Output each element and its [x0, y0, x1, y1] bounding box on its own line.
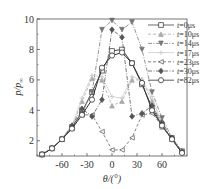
- y-axis-label: p/p∞: [12, 78, 24, 97]
- plot-area: [39, 18, 184, 157]
- data-point-marker: [169, 137, 174, 142]
- x-tick-label: 30: [132, 159, 142, 170]
- legend-marker: [159, 23, 164, 28]
- legend-label: t=14μs: [177, 39, 199, 48]
- legend-item: t=10μs: [148, 30, 199, 39]
- legend-marker: [158, 78, 163, 83]
- data-point-marker: [140, 47, 145, 52]
- x-axis-label: θ/(°): [103, 173, 122, 185]
- y-tick-label: 4: [29, 105, 34, 116]
- data-point-marker: [89, 97, 94, 102]
- data-point-marker: [100, 27, 105, 32]
- data-point-marker: [120, 148, 125, 153]
- legend: t=0μst=10μst=14μst=17μst=23μst=30μst=82μ…: [148, 21, 199, 85]
- x-tick-label: 0: [110, 159, 115, 170]
- legend-label: t=17μs: [177, 49, 199, 58]
- legend-item: t=82μs: [148, 76, 199, 85]
- data-point-marker: [120, 34, 125, 40]
- y-tick-label: 2: [29, 135, 34, 146]
- legend-item: t=0μs: [148, 21, 195, 30]
- series-line: [42, 113, 182, 154]
- data-point-marker: [149, 108, 154, 113]
- data-point-marker: [129, 61, 134, 66]
- x-tick-label: -30: [80, 159, 93, 170]
- data-point-marker: [110, 103, 115, 108]
- data-point-marker: [130, 114, 135, 120]
- data-point-marker: [119, 50, 124, 55]
- legend-label: t=23μs: [177, 58, 199, 67]
- data-point-marker: [139, 80, 144, 85]
- legend-label: t=10μs: [177, 30, 199, 39]
- data-point-marker: [59, 137, 64, 142]
- legend-item: t=30μs: [148, 67, 199, 76]
- pressure-distribution-chart: -60-3003060246810θ/(°)p/p∞ t=0μst=10μst=…: [0, 0, 220, 189]
- data-point-marker: [79, 112, 84, 117]
- data-point-marker: [110, 148, 115, 153]
- legend-marker: [159, 60, 164, 65]
- legend-label: t=82μs: [177, 76, 199, 85]
- data-point-marker: [120, 27, 125, 32]
- data-point-marker: [159, 123, 164, 128]
- data-point-marker: [49, 146, 54, 151]
- axes: -60-3003060246810θ/(°)p/p∞: [12, 14, 187, 186]
- x-tick-label: -60: [55, 159, 68, 170]
- plot-frame: [37, 19, 187, 156]
- data-point-marker: [110, 27, 115, 33]
- data-point-marker: [109, 53, 114, 58]
- data-point-marker: [179, 150, 184, 155]
- y-tick-label: 6: [29, 74, 34, 85]
- data-point-marker: [99, 65, 104, 70]
- legend-item: t=23μs: [148, 58, 199, 67]
- series-t-14-s: [40, 18, 185, 157]
- data-point-marker: [100, 129, 105, 134]
- series-t-17-s: [40, 73, 185, 157]
- series-line: [42, 21, 182, 155]
- x-tick-label: 60: [157, 159, 167, 170]
- data-point-marker: [69, 126, 74, 131]
- legend-item: t=14μs: [148, 39, 199, 48]
- y-tick-label: 10: [24, 14, 34, 25]
- legend-marker: [159, 68, 164, 74]
- legend-label: t=30μs: [177, 67, 199, 76]
- y-tick-label: 8: [29, 44, 34, 55]
- legend-item: t=17μs: [148, 49, 199, 58]
- legend-label: t=0μs: [177, 21, 195, 30]
